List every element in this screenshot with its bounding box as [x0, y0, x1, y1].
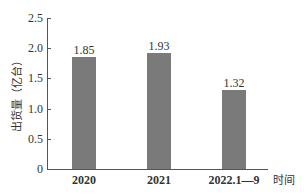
y-axis-line [47, 18, 48, 169]
y-tick-label: 2.5 [13, 12, 43, 24]
x-tick-label: 2021 [124, 174, 194, 186]
y-tick-label: 0.5 [13, 133, 43, 145]
bar-2021 [147, 53, 171, 169]
y-tick-label: 0 [13, 163, 43, 175]
bar-2022 [222, 90, 246, 169]
x-axis-line [47, 169, 268, 170]
y-axis-title: 出货量（亿台） [12, 53, 24, 133]
x-tick-label: 2022.1—9 [199, 174, 269, 186]
y-tick [47, 78, 51, 79]
data-label: 1.32 [214, 77, 254, 89]
y-tick [47, 169, 51, 170]
y-tick [47, 48, 51, 49]
data-label: 1.93 [139, 40, 179, 52]
y-tick [47, 18, 51, 19]
x-axis-title: 时间 [273, 175, 295, 187]
data-label: 1.85 [64, 44, 104, 56]
y-tick [47, 139, 51, 140]
bar-2020 [72, 57, 96, 169]
x-tick-label: 2020 [49, 174, 119, 186]
y-tick [47, 109, 51, 110]
